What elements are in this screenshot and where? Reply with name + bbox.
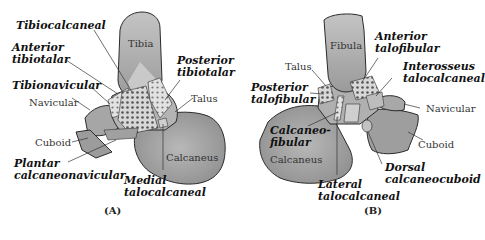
label-cuboid-b: Cuboid xyxy=(418,139,454,150)
label-tibia: Tibia xyxy=(128,38,153,49)
label-talus-a: Talus xyxy=(191,93,218,104)
plantar-calcaneonavicular-ligament xyxy=(104,128,138,140)
label-plantar-calcaneonavicular-2: calcaneonavicular xyxy=(14,170,126,182)
label-anterior-talofibular-2: talofibular xyxy=(375,43,440,55)
label-fibula: Fibula xyxy=(330,40,362,51)
label-medial-talocalcaneal-2: talocalcaneal xyxy=(124,187,206,199)
caption-b: (B) xyxy=(364,205,382,216)
label-navicular-b: Navicular xyxy=(426,103,476,114)
label-lateral-talocalcaneal-2: talocalcaneal xyxy=(318,191,400,203)
dorsal-calcaneocuboid-ligament xyxy=(362,120,372,132)
label-cuboid-a: Cuboid xyxy=(35,137,71,148)
label-dorsal-calcaneocuboid-2: calcaneocuboid xyxy=(385,174,481,186)
label-anterior-tibiotalar-2: tibiotalar xyxy=(12,54,70,66)
label-posterior-tibiotalar-2: tibiotalar xyxy=(177,67,235,79)
label-navicular-a: Navicular xyxy=(29,97,79,108)
label-interosseus-talocalcaneal-2: talocalcaneal xyxy=(403,73,485,85)
label-calcaneofibular-2: fibular xyxy=(270,137,311,149)
lateral-talocalcaneal-ligament xyxy=(344,104,360,122)
caption-a: (A) xyxy=(104,205,121,216)
label-talus-b: Talus xyxy=(285,61,312,72)
label-tibiocalcaneal: Tibiocalcaneal xyxy=(16,20,106,32)
label-calcaneus-b: Calcaneus xyxy=(270,154,322,165)
label-posterior-talofibular-2: talofibular xyxy=(251,94,316,106)
label-calcaneus-a: Calcaneus xyxy=(166,152,218,163)
label-tibionavicular: Tibionavicular xyxy=(12,80,101,92)
